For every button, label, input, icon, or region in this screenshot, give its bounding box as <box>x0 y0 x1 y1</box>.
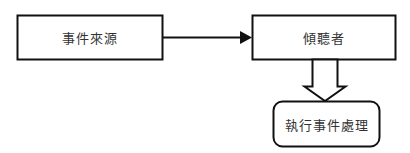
listener-label: 傾聽者 <box>252 15 396 60</box>
handler-label: 執行事件處理 <box>273 101 380 147</box>
diagram-canvas: 事件來源 傾聽者 執行事件處理 <box>0 0 410 153</box>
event-source-label: 事件來源 <box>17 15 163 60</box>
arrowhead-icon <box>240 31 252 44</box>
hollow-down-arrow-icon <box>305 60 346 102</box>
